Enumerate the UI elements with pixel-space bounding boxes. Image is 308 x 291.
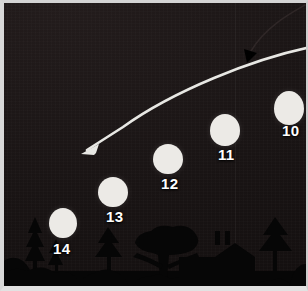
balloon-label-10: 10 <box>282 122 299 139</box>
balloon-label-12: 12 <box>161 175 178 192</box>
balloon-label-11: 11 <box>218 146 234 163</box>
sky-backdrop: 10 11 12 13 14 <box>3 3 308 288</box>
balloon-label-13: 13 <box>106 208 123 225</box>
night-sky-scene: 10 11 12 13 14 <box>0 0 308 291</box>
balloon-label-group: 10 11 12 13 14 <box>3 3 308 288</box>
balloon-label-14: 14 <box>53 240 70 257</box>
